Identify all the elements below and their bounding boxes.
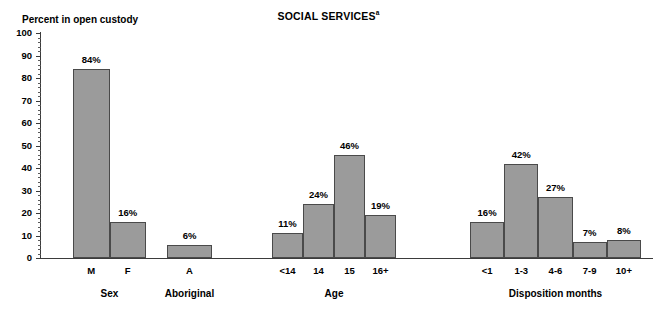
y-tick-label: 90 (10, 51, 32, 60)
bar (607, 240, 641, 258)
y-tick-label: 60 (10, 118, 32, 127)
y-tick-label: 70 (10, 96, 32, 105)
bar-value-label: 19% (353, 201, 408, 211)
bar-value-label: 42% (492, 150, 550, 160)
x-category-label: F (96, 266, 161, 276)
bar (504, 164, 538, 259)
bar-value-label: 8% (595, 226, 653, 236)
bar (167, 245, 212, 259)
x-category-label: 10+ (593, 266, 655, 276)
bar (365, 215, 396, 258)
bar (73, 69, 110, 258)
x-axis-line (41, 258, 653, 259)
bar (573, 242, 607, 258)
bar (470, 222, 504, 258)
chart-title-text: SOCIAL SERVICES (277, 10, 375, 22)
y-tick-major (36, 258, 41, 259)
bar (303, 204, 334, 258)
y-axis-ticks: 0102030405060708090100 (0, 0, 41, 312)
bar-value-label: 84% (61, 55, 122, 65)
y-tick-label: 30 (10, 186, 32, 195)
y-tick-label: 80 (10, 73, 32, 82)
x-category-label: A (153, 266, 226, 276)
bar (110, 222, 147, 258)
bar-value-label: 16% (98, 208, 159, 218)
x-group-label: Aboriginal (110, 288, 270, 299)
x-group-label: Disposition months (476, 288, 636, 299)
y-tick-label: 40 (10, 163, 32, 172)
y-tick-label: 50 (10, 141, 32, 150)
y-tick-label: 0 (10, 253, 32, 262)
bar-value-label: 46% (322, 141, 377, 151)
y-tick-label: 100 (10, 28, 32, 37)
bar-value-label: 27% (526, 183, 584, 193)
bar-value-label: 6% (155, 231, 224, 241)
y-tick-label: 10 (10, 231, 32, 240)
x-category-label: 16+ (351, 266, 410, 276)
chart-title-footnote-marker: a (376, 9, 380, 16)
chart-container: SOCIAL SERVICESa Percent in open custody… (0, 0, 657, 312)
y-tick-label: 20 (10, 208, 32, 217)
x-group-label: Age (254, 288, 414, 299)
bar (272, 233, 303, 258)
